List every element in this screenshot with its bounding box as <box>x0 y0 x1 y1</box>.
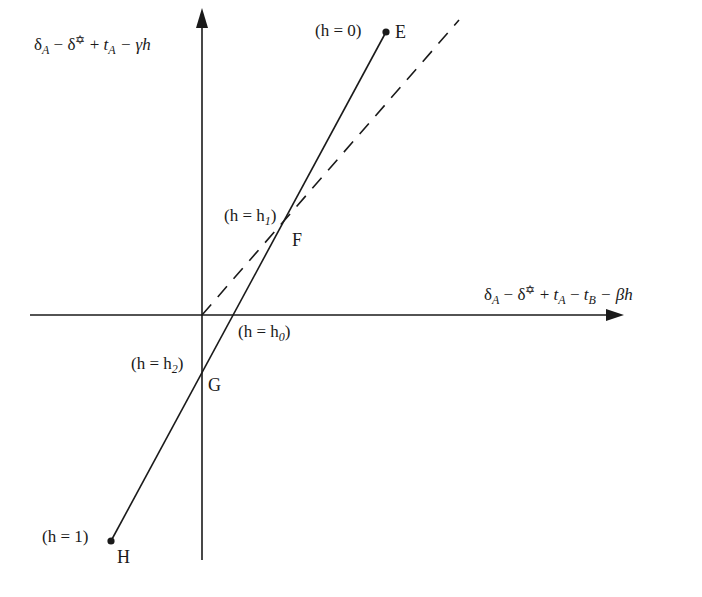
y-label-minus-delta: − δ <box>49 35 75 54</box>
dashed-line <box>202 20 459 315</box>
x-label-beta-h: − βh <box>596 285 633 304</box>
x-label-sub-a2: A <box>558 293 565 307</box>
x-label-delta: δ <box>484 285 492 304</box>
solid-line-eh <box>111 32 386 541</box>
point-h-condition: (h = 1) <box>42 528 88 545</box>
point-h-label: H <box>117 548 130 566</box>
condition-close: ) <box>271 206 277 225</box>
y-label-plus: + <box>85 35 103 54</box>
point-e-dot <box>382 28 389 35</box>
star-icon: ✡ <box>75 33 85 47</box>
x-axis-label: δA − δ✡ + tA − tB − βh <box>484 284 633 306</box>
x-axis-arrowhead-icon <box>606 309 624 321</box>
condition-close: ) <box>178 354 184 373</box>
y-axis-arrowhead-icon <box>196 8 208 28</box>
point-f-condition: (h = h1) <box>224 207 276 227</box>
y-label-gamma-h: − γh <box>116 35 151 54</box>
y-axis-label: δA − δ✡ + tA − γh <box>34 34 151 56</box>
condition-close: ) <box>285 322 291 341</box>
star-icon: ✡ <box>525 283 535 297</box>
condition-text: (h = h <box>131 354 172 373</box>
x-label-minus: − <box>566 285 584 304</box>
x-label-plus: + <box>535 285 553 304</box>
condition-text: (h = 0) <box>315 21 361 40</box>
point-e-label: E <box>395 23 406 41</box>
y-label-sub-a2: A <box>108 43 115 57</box>
x-intercept-condition: (h = h0) <box>238 323 290 343</box>
point-g-condition: (h = h2) <box>131 355 183 375</box>
point-f-label: F <box>292 231 302 249</box>
point-e-condition: (h = 0) <box>315 22 361 39</box>
point-h-dot <box>107 537 114 544</box>
y-label-delta: δ <box>34 35 42 54</box>
condition-text: (h = h <box>238 322 279 341</box>
condition-text: (h = 1) <box>42 527 88 546</box>
point-g-label: G <box>208 376 221 394</box>
x-label-minus-delta: − δ <box>499 285 525 304</box>
condition-text: (h = h <box>224 206 265 225</box>
x-label-sub-b: B <box>588 293 595 307</box>
